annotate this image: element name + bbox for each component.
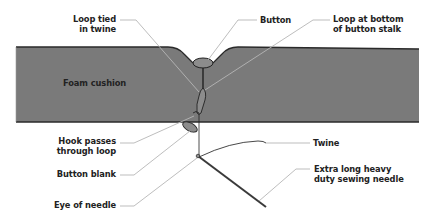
label-loop-tied: Loop tied in twine (60, 14, 116, 34)
leader-needle (259, 169, 310, 201)
twine-curve (199, 141, 266, 157)
label-button: Button (260, 15, 291, 25)
label-loop-bottom-line2: of button stalk (333, 24, 404, 34)
needle-icon (198, 156, 266, 207)
button-icon (193, 58, 213, 68)
label-eye-of-needle: Eye of needle (40, 200, 116, 210)
leader-button-blank (120, 131, 190, 175)
label-needle-line2: duty sewing needle (314, 174, 404, 184)
label-loop-bottom: Loop at bottom of button stalk (333, 14, 404, 34)
leader-eye (120, 158, 197, 206)
label-twine: Twine (313, 138, 339, 148)
label-foam-cushion: Foam cushion (63, 78, 126, 88)
label-needle-line1: Extra long heavy (314, 164, 404, 174)
label-needle: Extra long heavy duty sewing needle (314, 164, 404, 184)
label-button-blank: Button blank (40, 169, 116, 179)
label-loop-bottom-line1: Loop at bottom (333, 14, 404, 24)
needle-eye-icon (196, 154, 200, 158)
label-hook-line1: Hook passes (50, 136, 116, 146)
label-hook-line2: through loop (50, 146, 116, 156)
label-loop-tied-line1: Loop tied (60, 14, 116, 24)
label-loop-tied-line2: in twine (60, 24, 116, 34)
label-hook: Hook passes through loop (50, 136, 116, 156)
